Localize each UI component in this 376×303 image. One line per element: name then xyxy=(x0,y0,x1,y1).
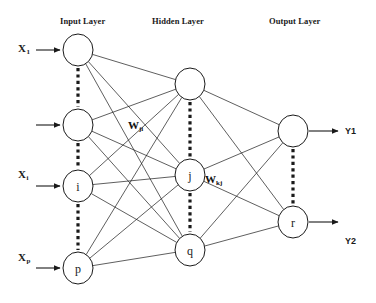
network-nodes xyxy=(63,34,308,284)
weight-label-base: W xyxy=(205,173,216,185)
network-edge xyxy=(88,137,179,239)
network-edge xyxy=(93,252,175,265)
node-label-in-i: i xyxy=(76,179,79,194)
network-node-in-1 xyxy=(63,34,93,66)
input-label-subscript: p xyxy=(26,257,30,265)
neural-network-diagram: Input LayerHidden LayerOutput Layer ipjq… xyxy=(0,0,376,303)
network-node-in-2 xyxy=(63,109,93,141)
input-label-subscript: 1 xyxy=(26,48,30,56)
weight-label-wji: Wji xyxy=(128,119,143,131)
node-label-hid-q: q xyxy=(187,243,193,258)
input-label-xp: Xp xyxy=(18,251,30,263)
output-label-y2: Y2 xyxy=(345,236,356,246)
network-edge xyxy=(92,89,176,120)
layer-title-hidden: Hidden Layer xyxy=(152,16,204,26)
network-edge xyxy=(200,143,283,238)
output-label-y1: Y1 xyxy=(345,126,356,136)
input-label-x1: X1 xyxy=(18,42,30,54)
edges-input-to-hidden xyxy=(86,54,183,265)
input-label-xi: Xi xyxy=(18,168,28,180)
weight-label-subscript: kj xyxy=(216,179,222,187)
network-edge xyxy=(204,137,279,169)
network-edge xyxy=(204,90,279,124)
network-edge xyxy=(92,131,176,169)
node-label-hid-j: j xyxy=(188,168,191,183)
node-label-in-p: p xyxy=(75,261,81,276)
weight-label-wkj: Wkj xyxy=(205,173,222,185)
layer-title-output: Output Layer xyxy=(269,16,321,26)
network-node-out-1 xyxy=(278,115,308,147)
edges-hidden-to-output xyxy=(199,90,283,246)
network-node-hid-1 xyxy=(175,68,205,100)
network-edge xyxy=(89,94,178,175)
network-edge xyxy=(91,194,177,243)
input-label-base: X xyxy=(18,251,26,263)
network-edge xyxy=(205,226,279,246)
weight-label-base: W xyxy=(128,119,139,131)
output-arrows xyxy=(309,131,338,222)
node-label-out-r: r xyxy=(291,215,295,230)
network-edge xyxy=(93,176,175,184)
layer-title-input: Input Layer xyxy=(60,16,105,26)
input-label-base: X xyxy=(18,42,26,54)
network-edge xyxy=(92,54,175,79)
weight-label-subscript: ji xyxy=(139,125,143,133)
input-label-base: X xyxy=(18,168,26,180)
input-arrows xyxy=(36,50,60,268)
